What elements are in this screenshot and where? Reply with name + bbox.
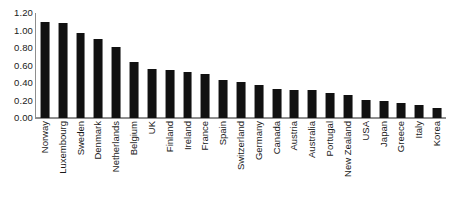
x-axis-category-label-text: Japan [379, 121, 389, 147]
bar-slot [321, 13, 339, 118]
bar-slot [410, 13, 428, 118]
bar[interactable] [130, 62, 139, 118]
bar-slot [339, 13, 357, 118]
y-axis-tick-label: 0.40 [14, 78, 33, 88]
x-axis-category-label: Korea [428, 121, 446, 200]
bar[interactable] [326, 93, 335, 118]
x-axis-category-label: Belgium [125, 121, 143, 200]
x-axis-category-label-text: France [200, 121, 210, 151]
x-axis-category-label: Germany [250, 121, 268, 200]
x-axis-category-label: France [196, 121, 214, 200]
chart-title [26, 0, 446, 2]
x-axis-category-label: New Zealand [339, 121, 357, 200]
bar[interactable] [379, 101, 388, 119]
x-axis-category-label-text: New Zealand [343, 121, 353, 177]
bar-slot [54, 13, 72, 118]
bar-slot [196, 13, 214, 118]
x-axis-category-label-text: Portugal [325, 121, 335, 156]
y-axis-tick-label: 1.20 [14, 8, 33, 18]
bar[interactable] [361, 100, 370, 118]
x-axis-category-label-text: Norway [40, 121, 50, 153]
x-axis-category-labels: NorwayLuxembourgSwedenDenmarkNetherlands… [36, 121, 446, 200]
bar[interactable] [308, 90, 317, 118]
x-axis-category-label-text: Spain [218, 121, 228, 145]
bar[interactable] [183, 72, 192, 118]
bar-slot [286, 13, 304, 118]
bar-slot [36, 13, 54, 118]
bar-chart: 1.201.000.800.600.400.200.00 NorwayLuxem… [0, 0, 456, 200]
bar[interactable] [147, 69, 156, 118]
y-axis-tick-label: 0.60 [14, 61, 33, 71]
bar[interactable] [343, 95, 352, 118]
x-axis-category-label: Japan [375, 121, 393, 200]
bar-slot [72, 13, 90, 118]
y-axis-tick-labels: 1.201.000.800.600.400.200.00 [0, 13, 33, 118]
x-axis-category-label-text: Denmark [93, 121, 103, 160]
bar-slot [179, 13, 197, 118]
x-axis-category-label-text: Italy [414, 121, 424, 138]
x-axis-category-label: Ireland [179, 121, 197, 200]
x-axis-category-label: Norway [36, 121, 54, 200]
x-axis-category-label-text: Greece [396, 121, 406, 152]
x-axis-category-label: Austria [286, 121, 304, 200]
x-axis-category-label: Switzerland [232, 121, 250, 200]
bar[interactable] [397, 103, 406, 118]
bar-slot [214, 13, 232, 118]
bar-slot [357, 13, 375, 118]
bar[interactable] [165, 70, 174, 118]
bar-slot [107, 13, 125, 118]
x-axis-category-label-text: Canada [272, 121, 282, 154]
x-axis-category-label-text: Austria [289, 121, 299, 151]
x-axis-category-label: Italy [410, 121, 428, 200]
bar[interactable] [40, 22, 49, 118]
plot-area [36, 13, 446, 118]
bar[interactable] [290, 90, 299, 118]
bar-slot [268, 13, 286, 118]
x-axis-category-label-text: Switzerland [236, 121, 246, 170]
x-axis-category-label: Canada [268, 121, 286, 200]
bar[interactable] [433, 108, 442, 119]
x-axis-category-label: Sweden [72, 121, 90, 200]
bar-slot [125, 13, 143, 118]
bar-slot [250, 13, 268, 118]
x-axis-category-label: USA [357, 121, 375, 200]
x-axis-category-label-text: Belgium [129, 121, 139, 155]
bar[interactable] [201, 74, 210, 118]
bar[interactable] [415, 105, 424, 118]
bar[interactable] [112, 47, 121, 118]
x-axis-category-label: Portugal [321, 121, 339, 200]
bar[interactable] [219, 80, 228, 118]
bar[interactable] [272, 89, 281, 118]
x-axis-category-label: Greece [393, 121, 411, 200]
bar-slot [428, 13, 446, 118]
bar[interactable] [58, 23, 67, 118]
x-axis-category-label: Netherlands [107, 121, 125, 200]
x-axis-category-label-text: Ireland [183, 121, 193, 150]
x-axis-category-label-text: Germany [254, 121, 264, 160]
bar-slot [89, 13, 107, 118]
y-axis-tick-label: 0.80 [14, 43, 33, 53]
bar-slot [143, 13, 161, 118]
x-axis-category-label-text: Finland [165, 121, 175, 152]
bar-slot [303, 13, 321, 118]
x-axis-category-label-text: Netherlands [111, 121, 121, 172]
x-axis-category-label: Finland [161, 121, 179, 200]
bar[interactable] [76, 33, 85, 118]
bar-slot [161, 13, 179, 118]
bar[interactable] [254, 85, 263, 118]
y-axis-tick-label: 1.00 [14, 26, 33, 36]
y-axis-tick-label: 0.00 [14, 113, 33, 123]
bar-slot [232, 13, 250, 118]
x-axis-category-label: UK [143, 121, 161, 200]
x-axis-category-label: Denmark [89, 121, 107, 200]
bar-slot [375, 13, 393, 118]
bar[interactable] [237, 82, 246, 118]
x-axis-category-label-text: USA [361, 121, 371, 141]
bar-slot [393, 13, 411, 118]
x-axis-category-label-text: UK [147, 121, 157, 134]
x-axis-category-label: Spain [214, 121, 232, 200]
bar[interactable] [94, 39, 103, 118]
x-axis-category-label: Australia [303, 121, 321, 200]
x-axis-category-label-text: Luxembourg [58, 121, 68, 174]
x-axis-category-label: Luxembourg [54, 121, 72, 200]
